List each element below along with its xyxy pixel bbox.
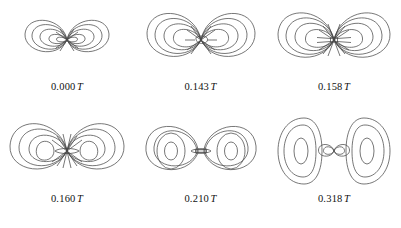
contour-plot-0 bbox=[3, 4, 131, 80]
panel-value-1: 0.143 bbox=[184, 81, 209, 92]
contour-plot-5 bbox=[270, 114, 398, 192]
panel-unit-4: T bbox=[209, 193, 217, 204]
contour-plot-4 bbox=[137, 114, 265, 192]
panel-label-3: 0.160T bbox=[51, 194, 83, 205]
panel-value-4: 0.210 bbox=[184, 193, 209, 204]
panel-unit-1: T bbox=[209, 81, 217, 92]
panel-unit-2: T bbox=[343, 81, 351, 92]
panel-unit-0: T bbox=[76, 81, 84, 92]
panel-label-1: 0.143T bbox=[184, 82, 216, 93]
panel-0: 0.000T bbox=[0, 4, 134, 93]
panel-1: 0.143T bbox=[134, 4, 267, 93]
panel-unit-3: T bbox=[76, 193, 84, 204]
panel-value-0: 0.000 bbox=[51, 81, 76, 92]
panel-label-0: 0.000T bbox=[51, 82, 83, 93]
panel-4: 0.210T bbox=[134, 114, 267, 205]
panel-value-3: 0.160 bbox=[51, 193, 76, 204]
contour-plot-1 bbox=[137, 4, 265, 80]
contour-plot-2 bbox=[270, 4, 398, 80]
panel-value-2: 0.158 bbox=[318, 81, 343, 92]
panel-label-5: 0.318T bbox=[318, 194, 350, 205]
panel-unit-5: T bbox=[343, 193, 351, 204]
contour-plot-figure: 0.000T bbox=[0, 0, 401, 228]
panel-3: 0.160T bbox=[0, 114, 134, 205]
panel-label-2: 0.158T bbox=[318, 82, 350, 93]
panel-label-4: 0.210T bbox=[184, 194, 216, 205]
panel-value-5: 0.318 bbox=[318, 193, 343, 204]
panel-2: 0.158T bbox=[267, 4, 401, 93]
contour-plot-3 bbox=[3, 114, 131, 192]
panel-5: 0.318T bbox=[267, 114, 401, 205]
